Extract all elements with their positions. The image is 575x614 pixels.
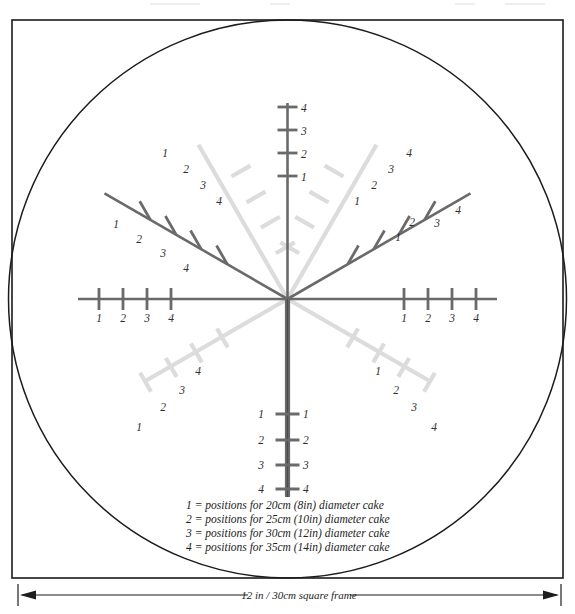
tick-label: 2	[301, 148, 307, 160]
tick-label: 1	[395, 231, 401, 243]
tick-label: 1	[162, 147, 168, 159]
tick-label: 3	[257, 459, 264, 471]
cake-position-diagram: 1 2 3 4 1 2 3 4 1 2 3 4 1 2 3 4 1 2	[0, 0, 575, 614]
tick-label: 4	[455, 204, 461, 216]
tick-label: 3	[448, 312, 455, 324]
tick-label: 3	[433, 217, 440, 229]
legend-block: 1 = positions for 20cm (8in) diameter ca…	[185, 499, 390, 554]
tick-label: 4	[216, 195, 222, 207]
legend-item-1: 1 = positions for 20cm (8in) diameter ca…	[186, 499, 384, 512]
frame-caption-text: 12 in / 30cm square frame	[241, 589, 357, 601]
tick-label: 2	[136, 233, 142, 245]
tick-label: 2	[160, 401, 166, 413]
tick-label: 4	[301, 102, 307, 114]
tick-label: 1	[136, 421, 142, 433]
legend-item-2: 2 = positions for 25cm (10in) diameter c…	[186, 513, 390, 526]
tick-label: 1	[96, 312, 102, 324]
tick-label: 2	[258, 434, 264, 446]
tick-label: 3	[302, 459, 309, 471]
tick-label: 3	[410, 401, 417, 413]
tick-label: 4	[473, 312, 479, 324]
tick-label: 3	[300, 125, 307, 137]
tick-label: 3	[159, 247, 166, 259]
tick-label: 4	[431, 421, 437, 433]
tick-label: 4	[303, 483, 309, 495]
tick-label: 2	[409, 216, 415, 228]
tick-label: 3	[199, 179, 206, 191]
tick-label: 4	[406, 147, 412, 159]
tick-label: 3	[178, 384, 185, 396]
tick-label: 4	[258, 483, 264, 495]
legend-item-4: 4 = positions for 35cm (14in) diameter c…	[186, 541, 390, 554]
tick-label: 4	[195, 365, 201, 377]
tick-label: 1	[303, 408, 309, 420]
tick-label: 2	[425, 312, 431, 324]
tick-label: 2	[183, 163, 189, 175]
tick-label: 1	[375, 365, 381, 377]
tick-label: 1	[301, 171, 307, 183]
legend-item-3: 3 = positions for 30cm (12in) diameter c…	[185, 527, 390, 540]
tick-label: 2	[371, 179, 377, 191]
figure-stage: 1 2 3 4 1 2 3 4 1 2 3 4 1 2 3 4 1 2	[0, 0, 575, 614]
tick-label: 2	[393, 384, 399, 396]
tick-label: 1	[113, 218, 119, 230]
tick-label: 4	[183, 262, 189, 274]
tick-label: 1	[401, 312, 407, 324]
tick-label: 4	[168, 312, 174, 324]
tick-label: 2	[303, 434, 309, 446]
tick-label: 1	[354, 195, 360, 207]
tick-label: 3	[387, 163, 394, 175]
tick-label: 1	[258, 408, 264, 420]
tick-label: 3	[143, 312, 150, 324]
tick-label: 2	[120, 312, 126, 324]
